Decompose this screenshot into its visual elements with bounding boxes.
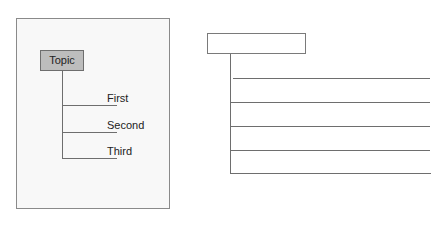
tree-trunk-line	[62, 71, 63, 159]
blank-line-4	[230, 150, 430, 151]
blank-topic-box	[207, 33, 306, 54]
branch-line-first	[62, 105, 117, 106]
branch-label-first: First	[107, 92, 128, 104]
blank-line-3	[230, 126, 430, 127]
example-panel	[16, 18, 170, 209]
blank-line-5	[230, 173, 431, 174]
branch-label-third: Third	[107, 145, 132, 157]
branch-line-second	[62, 132, 117, 133]
blank-line-2	[230, 102, 430, 103]
branch-line-third	[62, 158, 117, 159]
topic-node: Topic	[40, 50, 84, 71]
blank-line-1	[233, 78, 430, 79]
branch-label-second: Second	[107, 119, 144, 131]
blank-trunk-line	[230, 54, 231, 174]
